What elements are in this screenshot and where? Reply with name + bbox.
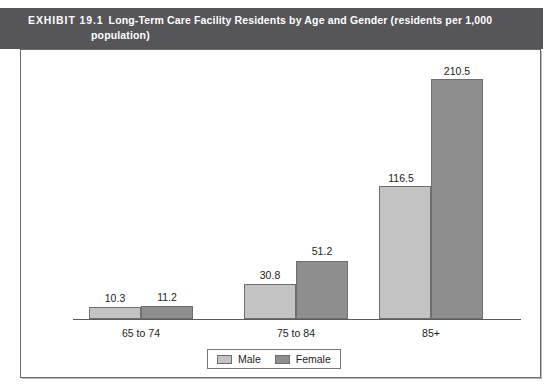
category-label-65-to-74: 65 to 74 (89, 327, 193, 339)
category-label-75-to-84: 75 to 84 (244, 327, 348, 339)
exhibit-title-line-1: Long-Term Care Facility Residents by Age… (109, 14, 493, 26)
category-label-85-plus: 85+ (379, 327, 483, 339)
exhibit-title-line-2: population) (91, 28, 533, 43)
legend-swatch-male-icon (217, 355, 232, 364)
legend-label-female: Female (296, 353, 331, 365)
bar-female-75-to-84[interactable] (296, 261, 348, 319)
exhibit-header-text: EXHIBIT 19.1Long-Term Care Facility Resi… (28, 13, 533, 43)
legend-label-male: Male (238, 353, 261, 365)
exhibit-figure: EXHIBIT 19.1Long-Term Care Facility Resi… (0, 0, 560, 392)
bar-group-85-plus (379, 109, 483, 319)
legend-entry-female[interactable]: Female (275, 353, 331, 365)
data-label-male-65-to-74: 10.3 (89, 292, 141, 304)
data-label-female-65-to-74: 11.2 (141, 291, 193, 303)
bar-female-65-to-74[interactable] (141, 306, 193, 319)
grouped-bar-chart: 10.3 11.2 65 to 74 30.8 51.2 75 to 84 11… (21, 50, 542, 379)
chart-frame: 10.3 11.2 65 to 74 30.8 51.2 75 to 84 11… (20, 49, 541, 378)
bar-male-85-plus[interactable] (379, 186, 431, 319)
bar-male-75-to-84[interactable] (244, 284, 296, 319)
category-axis-line (73, 319, 521, 320)
legend-entry-male[interactable]: Male (217, 353, 261, 365)
data-label-female-85-plus: 210.5 (431, 65, 483, 77)
data-label-male-85-plus: 116.5 (375, 172, 427, 184)
bar-group-75-to-84 (244, 109, 348, 319)
data-label-female-75-to-84: 51.2 (296, 245, 348, 257)
exhibit-number-label: EXHIBIT 19.1 (28, 14, 104, 26)
exhibit-header-band: EXHIBIT 19.1Long-Term Care Facility Resi… (0, 8, 543, 49)
data-label-male-75-to-84: 30.8 (244, 269, 296, 281)
legend-swatch-female-icon (275, 355, 290, 364)
bar-female-85-plus[interactable] (431, 79, 483, 319)
bar-group-65-to-74 (89, 109, 193, 319)
chart-legend: Male Female (207, 349, 341, 369)
bar-male-65-to-74[interactable] (89, 307, 141, 319)
